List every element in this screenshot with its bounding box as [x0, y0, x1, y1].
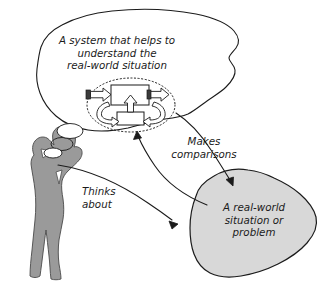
real-world-blob-shape	[190, 169, 317, 277]
makes-comparisons-arrow	[134, 131, 208, 205]
diagram-canvas: A system that helps to understand the re…	[0, 0, 322, 286]
thought-bubble-small	[44, 148, 62, 158]
diagram-svg	[0, 0, 322, 286]
thinks-about-arrow	[58, 165, 178, 229]
output-valve-icon	[147, 90, 151, 99]
feedback-box	[117, 112, 144, 125]
thinks-about-arrowhead	[169, 221, 178, 229]
thought-bubble-large	[57, 124, 83, 139]
cloud-to-blob-arrow-line	[176, 113, 230, 180]
makes-comparisons-arrowhead	[134, 131, 142, 140]
input-valve-icon	[86, 90, 91, 99]
thinks-about-arrow-line	[58, 165, 172, 220]
